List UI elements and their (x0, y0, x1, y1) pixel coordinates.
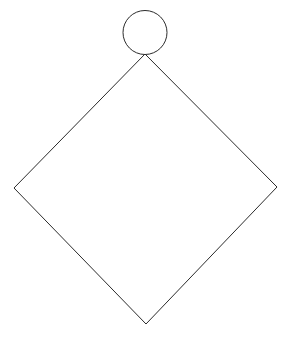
canvas-background (0, 0, 288, 341)
drawing-canvas (0, 0, 288, 341)
figure-svg (0, 0, 288, 341)
